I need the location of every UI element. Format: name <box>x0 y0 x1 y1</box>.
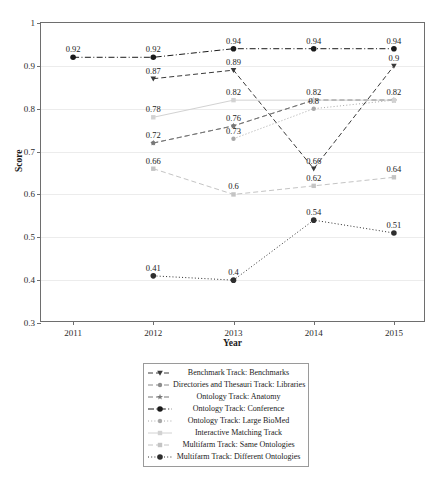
data-point-label: 0.82 <box>386 88 401 97</box>
legend-marker-icon <box>147 391 173 403</box>
line-chart-figure: Score 0.30.40.50.60.70.80.91 20112012201… <box>0 0 443 350</box>
series-2 <box>150 97 397 146</box>
series-6 <box>151 167 396 197</box>
data-point-label: 0.54 <box>306 208 321 217</box>
x-axis-tick <box>234 321 235 325</box>
legend-item[interactable]: Multifarm Track: Same Ontologies <box>144 439 308 451</box>
plot-area: 0.30.40.50.60.70.80.91 20112012201320142… <box>40 22 425 322</box>
y-axis-tick <box>37 280 41 281</box>
data-point-label: 0.76 <box>226 113 241 122</box>
gridline <box>41 109 424 110</box>
data-point-label: 0.94 <box>226 36 241 45</box>
y-axis-title: Score <box>14 149 24 172</box>
gridline <box>41 194 424 195</box>
legend-item[interactable]: Directories and Thesauri Track: Librarie… <box>144 379 308 391</box>
data-point-label: 0.8 <box>308 96 319 105</box>
legend-marker-icon <box>147 367 173 379</box>
x-axis-tick-label: 2015 <box>385 329 403 338</box>
legend-item[interactable]: Ontology Track: Anatomy <box>144 391 308 403</box>
y-axis-tick <box>37 194 41 195</box>
data-point-label: 0.94 <box>386 36 401 45</box>
y-axis-tick <box>37 323 41 324</box>
y-axis-tick-label: 0.5 <box>24 233 35 242</box>
gridline <box>41 237 424 238</box>
data-point-label: 0.78 <box>146 105 161 114</box>
y-axis-tick <box>37 237 41 238</box>
y-axis-tick-label: 0.7 <box>24 147 35 156</box>
series-0 <box>150 64 396 172</box>
legend-marker-icon <box>147 439 173 451</box>
y-axis-tick <box>37 152 41 153</box>
legend-item-label: Benchmark Track: Benchmarks <box>173 369 308 377</box>
legend-item-label: Ontology Track: Anatomy <box>173 393 308 401</box>
x-axis-tick-label: 2014 <box>305 329 323 338</box>
data-point-label: 0.73 <box>226 126 241 135</box>
chart-legend: Benchmark Track: BenchmarksDirectories a… <box>143 363 309 467</box>
data-point-label: 0.66 <box>306 156 321 165</box>
y-axis-tick-label: 0.6 <box>24 190 35 199</box>
x-axis-tick <box>394 321 395 325</box>
data-point-label: 0.92 <box>66 45 81 54</box>
legend-marker-icon <box>147 415 173 427</box>
x-axis-tick-label: 2011 <box>64 329 82 338</box>
legend-marker-icon <box>147 451 173 463</box>
data-point-label: 0.6 <box>228 182 239 191</box>
data-point-label: 0.89 <box>226 58 241 67</box>
x-axis-tick-label: 2013 <box>225 329 243 338</box>
gridline <box>41 280 424 281</box>
y-axis-tick-label: 0.8 <box>24 104 35 113</box>
y-axis-tick-label: 0.9 <box>24 61 35 70</box>
legend-item-label: Ontology Track: Large BioMed <box>173 417 308 425</box>
data-point-label: 0.72 <box>146 131 161 140</box>
x-axis-tick <box>73 321 74 325</box>
legend-marker-icon <box>147 427 173 439</box>
legend-marker-icon <box>147 403 173 415</box>
x-axis-tick <box>314 321 315 325</box>
data-point-label: 0.4 <box>228 268 239 277</box>
x-axis-tick <box>153 321 154 325</box>
data-point-label: 0.92 <box>146 45 161 54</box>
x-axis-title: Year <box>40 338 425 348</box>
data-point-label: 0.62 <box>306 173 321 182</box>
series-7 <box>150 217 396 283</box>
legend-item[interactable]: Interactive Matching Track <box>144 427 308 439</box>
legend-item-label: Interactive Matching Track <box>173 429 308 437</box>
legend-item-label: Multifarm Track: Same Ontologies <box>173 441 308 449</box>
legend-item-label: Ontology Track: Conference <box>173 405 308 413</box>
series-lines <box>41 23 426 323</box>
y-axis-tick-label: 1 <box>31 19 36 28</box>
legend-item[interactable]: Ontology Track: Conference <box>144 403 308 415</box>
y-axis-tick <box>37 109 41 110</box>
gridline <box>41 152 424 153</box>
series-1 <box>151 98 396 145</box>
legend-item-label: Multifarm Track: Different Ontologies <box>173 453 308 461</box>
legend-marker-icon <box>147 379 173 391</box>
data-point-label: 0.64 <box>386 165 401 174</box>
legend-item[interactable]: Benchmark Track: Benchmarks <box>144 367 308 379</box>
y-axis-tick <box>37 23 41 24</box>
legend-item[interactable]: Multifarm Track: Different Ontologies <box>144 451 308 463</box>
y-axis-tick-label: 0.4 <box>24 276 35 285</box>
legend-item-label: Directories and Thesauri Track: Librarie… <box>173 381 309 389</box>
y-axis-tick <box>37 66 41 67</box>
y-axis-tick-label: 0.3 <box>24 319 35 328</box>
data-point-label: 0.51 <box>386 221 401 230</box>
x-axis-tick-label: 2012 <box>144 329 162 338</box>
data-point-label: 0.87 <box>146 66 161 75</box>
legend-item[interactable]: Ontology Track: Large BioMed <box>144 415 308 427</box>
data-point-label: 0.41 <box>146 263 161 272</box>
data-point-label: 0.94 <box>306 36 321 45</box>
data-point-label: 0.82 <box>226 88 241 97</box>
data-point-label: 0.66 <box>146 156 161 165</box>
data-point-label: 0.9 <box>389 53 400 62</box>
